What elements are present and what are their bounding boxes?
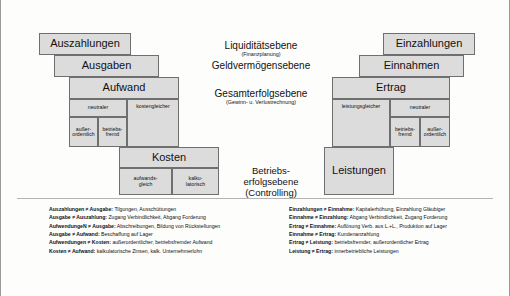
legend-row: Ertrag ≠ Leistung: betriebsfremder, auße… (289, 238, 447, 246)
box-kosten-kalkulatorisch: kalku- latorisch (172, 168, 219, 195)
level-liquiditaetsebene-label: Liquiditätsebene (225, 40, 298, 51)
box-aufwand-betriebsfremd-label: betriebs- fremd (102, 127, 122, 138)
box-aufwand-ausserordentlich: außer- ordentlich (69, 117, 98, 147)
legend-left-column: Auszahlungen ≠ Ausgabe: Tilgungen, Aussc… (49, 205, 220, 255)
box-aufwand-neutraler: neutraler (69, 99, 127, 117)
legend-row: Aufwendungen ≠ Kosten: außerordentlicher… (49, 238, 220, 246)
legend-row: Ausgabe ≠ Aufwand: Beschaffung auf Lager (49, 230, 220, 238)
legend-term: Einzahlungen ≠ Einnahme: (289, 206, 354, 212)
box-aufwand-betriebsfremd: betriebs- fremd (98, 117, 127, 147)
box-ertrag-betriebsfremd: betriebs- fremd (390, 117, 420, 147)
legend-term: Einnahme ≠ Einzahlung: (289, 214, 348, 220)
level-geldvermoegensebene: Geldvermögensebene (197, 60, 325, 71)
level-geldvermoegensebene-label: Geldvermögensebene (212, 60, 310, 71)
legend-term: Auszahlungen ≠ Ausgabe: (49, 206, 113, 212)
box-leistungen-label: Leistungen (332, 165, 386, 177)
legend-row: Einnahme ≠ Ertrag: Kundenanzahlung (289, 230, 447, 238)
legend-desc: Kundenanzahlung (338, 231, 379, 237)
box-leistungen: Leistungen (324, 147, 394, 195)
legend-desc: Kapitalerhöhung, Einzahlung Gläubiger (356, 206, 445, 212)
legend-row: AufwendungeN ≠ Ausgabe: Abschreibungen, … (49, 222, 220, 230)
legend-right-column: Einzahlungen ≠ Einnahme: Kapitalerhöhung… (289, 205, 447, 255)
legend-desc: betriebsfremder, außerordentlicher Ertra… (334, 239, 428, 245)
box-auszahlungen: Auszahlungen (39, 33, 131, 55)
level-gesamterfolgsebene-paren: (Gewinn- u. Verlustrechnung) (197, 99, 325, 105)
box-ausgaben: Ausgaben (54, 55, 159, 77)
legend-term: Aufwendungen ≠ Kosten: (49, 239, 111, 245)
box-ertrag-leistungsgleicher-label: leistungsgleicher (342, 104, 381, 109)
legend-term: Ertrag ≠ Leistung: (289, 239, 333, 245)
box-kosten-label: Kosten (152, 152, 186, 164)
legend-term: Ertrag ≠ Einnahme: (289, 223, 336, 229)
box-einnahmen-label: Einnahmen (384, 60, 440, 72)
level-gesamterfolgsebene: Gesamterfolgsebene (Gewinn- u. Verlustre… (197, 88, 325, 105)
level-betriebserfolgsebene-paren: (Controlling) (245, 187, 297, 198)
box-kosten: Kosten (119, 147, 219, 168)
legend-row: Einnahme ≠ Einzahlung: Abgang Verbindlic… (289, 213, 447, 221)
legend-desc: kalkulatorische Zinsen, kalk. Unternehme… (97, 248, 202, 254)
legend-row: Auszahlungen ≠ Ausgabe: Tilgungen, Aussc… (49, 205, 220, 213)
box-ertrag-neutraler: neutraler (390, 99, 450, 117)
box-aufwand-label: Aufwand (103, 82, 146, 94)
legend-desc: Abgang Verbindlichkeit, Zugang Forderung (350, 214, 448, 220)
box-ertrag-ausserordentlich-label: außer- ordentlich (424, 127, 447, 138)
legend-row: Ertrag ≠ Einnahme: Auflösung Verb. aus L… (289, 222, 447, 230)
legend-term: Ausgabe ≠ Aufwand: (49, 231, 100, 237)
box-ertrag-leistungsgleicher: leistungsgleicher (332, 99, 390, 147)
legend-desc: außerordentlicher, betriebsfremder Aufwa… (112, 239, 212, 245)
box-aufwand: Aufwand (69, 77, 179, 99)
box-ertrag-betriebsfremd-label: betriebs- fremd (395, 127, 415, 138)
legend-row: Kosten ≠ Aufwand: kalkulatorische Zinsen… (49, 247, 220, 255)
legend-row: Ausgabe ≠ Auszahlung: Zugang Verbindlich… (49, 213, 220, 221)
level-liquiditaetsebene-paren: (Finanzplanung) (201, 51, 321, 57)
box-ertrag-label: Ertrag (376, 82, 406, 94)
legend-row: Leistung ≠ Ertrag: innerbetriebliche Lei… (289, 247, 447, 255)
box-einzahlungen-label: Einzahlungen (396, 38, 463, 50)
level-gesamterfolgsebene-label: Gesamterfolgsebene (215, 88, 308, 99)
legend-desc: Zugang Verbindlichkeit, Abgang Forderung (108, 214, 205, 220)
box-auszahlungen-label: Auszahlungen (50, 38, 120, 50)
box-ausgaben-label: Ausgaben (82, 60, 132, 72)
box-aufwand-kostengleicher-label: kostengleicher (136, 104, 169, 109)
box-einnahmen: Einnahmen (359, 55, 464, 77)
legend-desc: Beschaffung auf Lager (101, 231, 153, 237)
legend-term: Ausgabe ≠ Auszahlung: (49, 214, 107, 220)
box-aufwand-neutraler-label: neutraler (88, 105, 108, 110)
box-ertrag: Ertrag (332, 77, 450, 99)
box-kosten-kalkulatorisch-label: kalku- latorisch (186, 176, 205, 187)
box-ertrag-ausserordentlich: außer- ordentlich (420, 117, 450, 147)
level-betriebserfolgsebene-label: Betriebs- erfolgsebene (244, 165, 299, 187)
level-betriebserfolgsebene: Betriebs- erfolgsebene (Controlling) (229, 155, 313, 199)
legend-term: Leistung ≠ Ertrag: (289, 248, 333, 254)
box-ertrag-neutraler-label: neutraler (410, 105, 430, 110)
legend-row: Einzahlungen ≠ Einnahme: Kapitalerhöhung… (289, 205, 447, 213)
legend-desc: Abschreibungen, Bildung von Rückstellung… (117, 223, 220, 229)
legend-divider (17, 198, 493, 199)
legend-term: AufwendungeN ≠ Ausgabe: (49, 223, 116, 229)
level-liquiditaetsebene: Liquiditätsebene (Finanzplanung) (201, 40, 321, 57)
box-kosten-aufwandsgleich-label: aufwands- gleich (134, 176, 158, 187)
box-aufwand-kostengleicher: kostengleicher (127, 99, 179, 147)
box-kosten-aufwandsgleich: aufwands- gleich (119, 168, 172, 195)
diagram-canvas: Auszahlungen Ausgaben Aufwand neutraler … (0, 0, 510, 296)
legend-term: Einnahme ≠ Ertrag: (289, 231, 336, 237)
legend-desc: innerbetriebliche Leistungen (334, 248, 398, 254)
legend-term: Kosten ≠ Aufwand: (49, 248, 95, 254)
box-aufwand-ausserordentlich-label: außer- ordentlich (72, 127, 95, 138)
legend-desc: Auflösung Verb. aus L.+L., Produktion au… (337, 223, 447, 229)
box-einzahlungen: Einzahlungen (383, 33, 475, 55)
legend-desc: Tilgungen, Ausschüttungen (114, 206, 176, 212)
